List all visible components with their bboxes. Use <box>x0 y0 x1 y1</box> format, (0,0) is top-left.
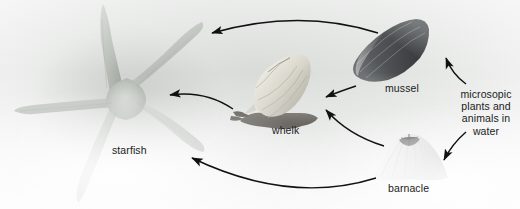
label-barnacle: barnacle <box>388 182 429 194</box>
arrow-mussel-to-whelk <box>326 86 356 97</box>
arrows-layer <box>0 0 520 209</box>
arrow-whelk-to-starfish <box>170 94 233 109</box>
label-starfish: starfish <box>112 144 147 156</box>
arrow-barnacle-to-starfish <box>192 158 376 188</box>
label-mussel: mussel <box>385 82 419 94</box>
arrow-plankton-to-mussel <box>446 58 466 84</box>
label-whelk: whelk <box>272 124 299 136</box>
arrow-mussel-to-starfish <box>212 21 378 34</box>
food-web-diagram: starfish whelk mussel barnacle microsopi… <box>0 0 520 209</box>
arrow-barnacle-to-whelk <box>326 110 384 146</box>
label-plankton: microsopic plants and animals in water <box>455 88 517 137</box>
